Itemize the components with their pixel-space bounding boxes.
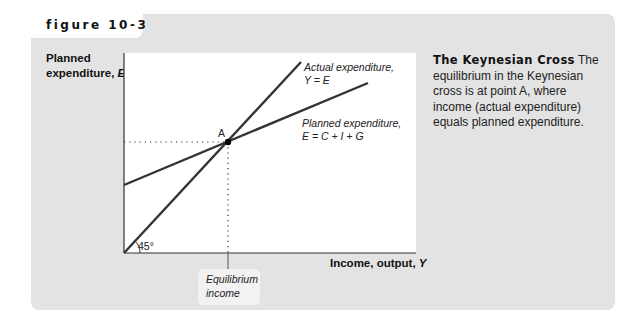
x-axis-label: Income, output, Y (330, 257, 426, 269)
equilibrium-point-a (225, 139, 231, 145)
point-a-label: A (218, 127, 225, 139)
caption-title: The Keynesian Cross (433, 53, 575, 67)
actual-label-line2: Y = E (304, 74, 330, 86)
planned-label-line2: E = C + I + G (302, 130, 364, 142)
planned-expenditure-label: Planned expenditure, E = C + I + G (302, 117, 401, 143)
actual-label-line1: Actual expenditure, (304, 61, 394, 73)
equilibrium-label-line1: Equilibrium (206, 273, 258, 285)
equilibrium-label-line2: income (206, 287, 240, 299)
actual-expenditure-label: Actual expenditure, Y = E (304, 61, 394, 87)
x-axis-label-text: Income, output, (330, 257, 419, 269)
angle-label: 45° (138, 240, 154, 252)
figure-caption: The Keynesian Cross The equilibrium in t… (433, 53, 605, 131)
x-axis-variable: Y (419, 257, 427, 269)
equilibrium-income-label: Equilibrium income (206, 272, 258, 300)
planned-label-line1: Planned expenditure, (302, 117, 401, 129)
keynesian-cross-chart (0, 0, 641, 326)
